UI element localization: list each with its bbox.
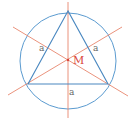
- side-label-a-2: a: [93, 43, 99, 53]
- bisector-line-3: [13, 27, 128, 96]
- side-label-a-1: a: [39, 43, 45, 53]
- side-label-a-3: a: [69, 87, 75, 97]
- bisector-line-2: [8, 27, 122, 95]
- center-label-m: M: [73, 54, 84, 67]
- diagram-canvas: M aaa: [0, 0, 137, 127]
- center-point: [67, 59, 69, 61]
